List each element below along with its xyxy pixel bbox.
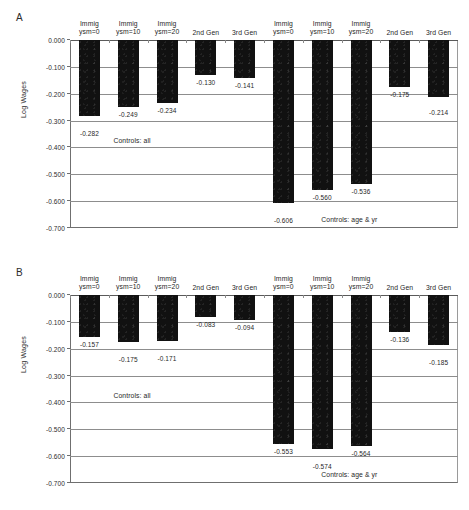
y-axis-tick-mark — [67, 482, 70, 483]
bar-value-label: -0.130 — [196, 79, 215, 86]
x-axis-tick-mark — [148, 40, 149, 43]
gridline — [70, 147, 458, 148]
gridline — [70, 121, 458, 122]
x-axis-category-label: Immigysm=10 — [310, 20, 335, 35]
x-axis-tick-mark — [303, 40, 304, 43]
gridline — [70, 349, 458, 350]
x-axis-tick-mark — [264, 295, 265, 298]
y-axis-tick-label: -0.100 — [46, 63, 65, 70]
x-axis-tick-mark — [380, 40, 381, 43]
y-axis-tick-mark — [67, 375, 70, 376]
bar — [195, 295, 216, 317]
bar — [351, 295, 372, 446]
x-axis-tick-mark — [342, 40, 343, 43]
bar — [273, 40, 294, 203]
y-axis-tick-label: -0.500 — [46, 171, 65, 178]
y-axis-tick-label: -0.300 — [46, 117, 65, 124]
y-axis-tick-mark — [67, 401, 70, 402]
x-axis-tick-mark — [225, 40, 226, 43]
y-axis-tick-mark — [67, 93, 70, 94]
gridline — [70, 174, 458, 175]
y-axis-tick-label: -0.600 — [46, 453, 65, 460]
bar-value-label: -0.214 — [429, 109, 448, 116]
x-axis-category-label: Immigysm=0 — [79, 275, 100, 290]
x-axis-category-label: 3rd Gen — [426, 29, 451, 37]
bar-value-label: -0.564 — [351, 450, 370, 457]
bar-value-label: -0.553 — [274, 448, 293, 455]
bar-value-label: -0.560 — [313, 194, 332, 201]
bar — [389, 40, 410, 87]
x-axis-category-label: Immigysm=20 — [155, 20, 180, 35]
plot-area-b: 0.000-0.100-0.200-0.300-0.400-0.500-0.60… — [70, 295, 458, 483]
y-axis-tick-mark — [67, 66, 70, 67]
y-axis-label-b: Log Wages — [20, 310, 27, 400]
bar-value-label: -0.234 — [157, 107, 176, 114]
gridline — [70, 376, 458, 377]
bar-value-label: -0.094 — [235, 324, 254, 331]
x-axis-tick-mark — [186, 295, 187, 298]
x-axis-tick-mark — [109, 295, 110, 298]
bar-value-label: -0.175 — [390, 91, 409, 98]
chart-panel-a: A Log Wages 0.000-0.100-0.200-0.300-0.40… — [0, 0, 469, 255]
bar — [312, 295, 333, 449]
y-axis-tick-mark — [67, 348, 70, 349]
x-axis-tick-mark — [342, 295, 343, 298]
bar-value-label: -0.249 — [119, 111, 138, 118]
bar-value-label: -0.574 — [313, 463, 332, 470]
x-axis-tick-mark — [419, 40, 420, 43]
bar — [273, 295, 294, 444]
y-axis-tick-mark — [67, 227, 70, 228]
y-axis-tick-mark — [67, 120, 70, 121]
bar — [157, 295, 178, 341]
y-axis-tick-mark — [67, 200, 70, 201]
chart-panel-b: B Log Wages 0.000-0.100-0.200-0.300-0.40… — [0, 255, 469, 510]
controls-annotation: Controls: age & yr — [321, 471, 377, 478]
bar — [428, 295, 449, 345]
bar — [195, 40, 216, 75]
x-axis-category-label: 2nd Gen — [386, 284, 413, 292]
y-axis-tick-mark — [67, 321, 70, 322]
y-axis-tick-label: -0.300 — [46, 372, 65, 379]
y-axis-tick-label: 0.000 — [48, 37, 65, 44]
x-axis-tick-mark — [225, 295, 226, 298]
gridline — [70, 402, 458, 403]
y-axis-tick-label: 0.000 — [48, 292, 65, 299]
x-axis-category-label: Immigysm=10 — [116, 20, 141, 35]
y-axis-label-a: Log Wages — [20, 55, 27, 145]
x-axis-tick-mark — [380, 295, 381, 298]
bar — [79, 40, 100, 116]
gridline — [70, 429, 458, 430]
y-axis-tick-label: -0.500 — [46, 426, 65, 433]
x-axis-tick-mark — [109, 40, 110, 43]
x-axis-category-label: 2nd Gen — [192, 284, 219, 292]
bar — [428, 40, 449, 97]
x-axis-tick-mark — [70, 295, 71, 298]
gridline — [70, 201, 458, 202]
bar-value-label: -0.606 — [274, 217, 293, 224]
y-axis-tick-label: -0.700 — [46, 480, 65, 487]
bar — [234, 40, 255, 78]
bar — [351, 40, 372, 184]
y-axis-tick-label: -0.700 — [46, 225, 65, 232]
x-axis-category-label: Immigysm=20 — [349, 275, 374, 290]
x-axis-tick-mark — [70, 40, 71, 43]
x-axis-category-label: 3rd Gen — [232, 284, 257, 292]
bar-value-label: -0.282 — [80, 130, 99, 137]
x-axis-category-label: Immigysm=20 — [155, 275, 180, 290]
bar — [157, 40, 178, 103]
panel-letter-a: A — [16, 12, 23, 23]
x-axis-category-label: Immigysm=10 — [310, 275, 335, 290]
bar-value-label: -0.141 — [235, 82, 254, 89]
y-axis-tick-mark — [67, 173, 70, 174]
bar — [389, 295, 410, 332]
controls-annotation: Controls: all — [113, 392, 150, 399]
y-axis-tick-label: -0.400 — [46, 399, 65, 406]
x-axis-tick-mark — [186, 40, 187, 43]
bar — [79, 295, 100, 337]
plot-area-a: 0.000-0.100-0.200-0.300-0.400-0.500-0.60… — [70, 40, 458, 228]
y-axis-tick-label: -0.200 — [46, 345, 65, 352]
y-axis-tick-mark — [67, 428, 70, 429]
x-axis-category-label: Immigysm=10 — [116, 275, 141, 290]
x-axis-tick-mark — [419, 295, 420, 298]
y-axis-tick-mark — [67, 146, 70, 147]
